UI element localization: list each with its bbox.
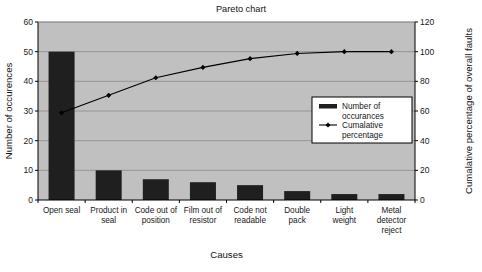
y-tick-label-left: 50 [24, 47, 34, 57]
x-category-label: resistor [190, 216, 217, 225]
bar[interactable] [378, 194, 404, 200]
legend: Number ofoccurancesCumalativepercentage [312, 97, 412, 143]
x-category-label: Code out of [135, 206, 178, 215]
legend-label-cumulative-line1: Cumalative [342, 121, 383, 130]
y-tick-label-left: 20 [24, 136, 34, 146]
y-tick-label-right: 20 [420, 165, 430, 175]
bar[interactable] [237, 185, 263, 200]
legend-label-occurrences-line1: Number of [342, 102, 381, 111]
x-category-label: Metal [381, 206, 401, 215]
x-category-label: Double [284, 206, 310, 215]
x-category-label: pack [289, 216, 307, 225]
legend-swatch-bar [319, 104, 337, 109]
legend-label-cumulative-line2: percentage [342, 131, 383, 140]
pareto-chart-figure: Pareto chart0102030405060020406080100120… [0, 0, 482, 272]
bar[interactable] [96, 170, 122, 200]
x-category-label: position [142, 216, 171, 225]
bar[interactable] [331, 194, 357, 200]
y-axis-title-right: Cumalative percentage of overall faults [463, 28, 474, 194]
y-tick-label-right: 40 [420, 136, 430, 146]
x-category-label: Code not [233, 206, 267, 215]
y-tick-label-right: 100 [420, 47, 434, 57]
y-tick-label-left: 60 [24, 17, 34, 27]
y-tick-label-right: 60 [420, 106, 430, 116]
x-category-label: Product in [90, 206, 127, 215]
chart-title: Pareto chart [216, 4, 266, 14]
x-category-label: readable [234, 216, 266, 225]
y-tick-label-left: 30 [24, 106, 34, 116]
x-category-label: weight [331, 216, 356, 225]
legend-label-occurrences-line2: occurances [342, 112, 384, 121]
x-category-label: Open seal [43, 206, 81, 215]
x-category-label: Light [335, 206, 353, 215]
bar[interactable] [143, 179, 169, 200]
y-tick-label-left: 40 [24, 76, 34, 86]
x-axis-title: Causes [210, 249, 243, 260]
y-tick-label-right: 0 [420, 195, 425, 205]
x-category-label: reject [381, 226, 402, 235]
x-category-label: seal [101, 216, 116, 225]
x-category-label: Film out of [184, 206, 223, 215]
y-tick-label-right: 80 [420, 76, 430, 86]
bar[interactable] [49, 52, 75, 200]
bar[interactable] [284, 191, 310, 200]
y-tick-label-right: 120 [420, 17, 434, 27]
y-tick-label-left: 0 [28, 195, 33, 205]
chart-canvas: Pareto chart0102030405060020406080100120… [0, 0, 482, 272]
y-axis-title-left: Number of occurences [3, 63, 14, 160]
bar[interactable] [190, 182, 216, 200]
y-tick-label-left: 10 [24, 165, 34, 175]
x-category-label: detector [377, 216, 407, 225]
